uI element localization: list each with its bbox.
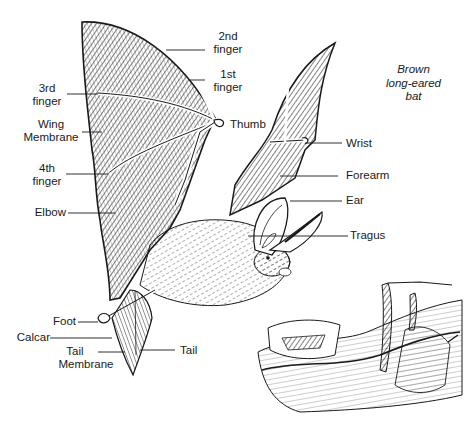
label-text: Wrist — [346, 137, 372, 149]
label-text: Tail — [56, 345, 116, 358]
label-tragus: Tragus — [350, 229, 385, 242]
label-text: Elbow — [35, 206, 66, 218]
label-text: finger — [208, 81, 248, 94]
label-4th-finger: 4th finger — [28, 162, 66, 188]
species-caption: Brown long-eared bat — [366, 63, 461, 104]
label-thumb: Thumb — [230, 118, 266, 131]
label-2nd-finger: 2nd finger — [208, 30, 248, 56]
bat-anatomy-diagram: Brown long-eared bat 2nd finger 1st fing… — [0, 0, 475, 422]
label-ear: Ear — [346, 194, 364, 207]
label-text: Membrane — [20, 131, 82, 144]
label-text: finger — [28, 175, 66, 188]
label-text: Tragus — [350, 229, 385, 241]
label-3rd-finger: 3rd finger — [28, 82, 66, 108]
caption-line-3: bat — [366, 90, 461, 104]
label-text: Thumb — [230, 118, 266, 130]
label-text: Forearm — [346, 169, 389, 181]
label-tail: Tail — [180, 344, 197, 357]
label-text: 2nd — [208, 30, 248, 43]
label-text: 4th — [28, 162, 66, 175]
label-text: Ear — [346, 194, 364, 206]
label-text: Calcar — [17, 331, 50, 343]
label-foot: Foot — [40, 315, 76, 328]
label-calcar: Calcar — [10, 331, 50, 344]
label-forearm: Forearm — [346, 169, 389, 182]
label-tail-membrane: Tail Membrane — [56, 345, 116, 371]
label-text: Tail — [180, 344, 197, 356]
label-text: finger — [208, 43, 248, 56]
label-text: Membrane — [56, 358, 116, 371]
label-text: 1st — [208, 68, 248, 81]
label-elbow: Elbow — [28, 206, 66, 219]
label-text: Wing — [20, 118, 82, 131]
background-foliage — [258, 282, 462, 412]
label-text: finger — [28, 95, 66, 108]
caption-line-2: long-eared — [366, 77, 461, 91]
label-text: 3rd — [28, 82, 66, 95]
label-text: Foot — [53, 315, 76, 327]
label-wrist: Wrist — [346, 137, 372, 150]
caption-line-1: Brown — [366, 63, 461, 77]
label-1st-finger: 1st finger — [208, 68, 248, 94]
label-wing-membrane: Wing Membrane — [20, 118, 82, 144]
